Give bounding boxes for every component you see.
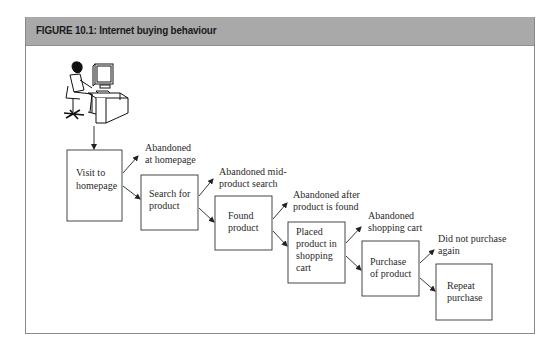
- exit-did-not-purchase-again: Did not purchase again: [438, 233, 507, 256]
- step-found-product: Found product: [215, 196, 272, 250]
- exit-label: Abandoned: [368, 210, 414, 221]
- step-label: Found: [228, 210, 254, 221]
- exit-label: Abandoned mid-: [219, 166, 287, 177]
- step-label: Visit to: [76, 167, 105, 178]
- exit-label: product search: [219, 178, 278, 189]
- step-label: shopping: [296, 250, 333, 261]
- exit-abandoned-homepage: Abandoned at homepage: [145, 142, 196, 165]
- step-label: homepage: [76, 180, 118, 191]
- exit-label: shopping cart: [368, 222, 422, 233]
- step-label: Purchase: [370, 256, 407, 267]
- step-placed-in-cart: Placed product in shopping cart: [288, 222, 345, 283]
- flow-diagram: Visit to homepage Search for product Fou…: [0, 0, 559, 353]
- step-purchase-product: Purchase of product: [362, 241, 419, 296]
- step-label: of product: [370, 268, 412, 279]
- exit-label: Abandoned: [145, 142, 191, 153]
- step-label: product: [149, 200, 180, 211]
- exit-abandoned-cart: Abandoned shopping cart: [368, 210, 422, 233]
- step-label: purchase: [447, 292, 483, 303]
- person-at-computer-icon: [64, 62, 128, 123]
- exit-label: at homepage: [145, 154, 196, 165]
- step-label: Repeat: [447, 280, 475, 291]
- step-search-product: Search for product: [141, 175, 198, 230]
- step-label: product in: [296, 238, 337, 249]
- exit-label: again: [438, 245, 460, 256]
- exit-label: product is found: [293, 201, 359, 212]
- step-visit-homepage: Visit to homepage: [67, 150, 122, 221]
- step-label: cart: [296, 262, 311, 273]
- step-label: Placed: [296, 226, 323, 237]
- step-label: Search for: [149, 188, 191, 199]
- exit-label: Did not purchase: [438, 233, 507, 244]
- step-repeat-purchase: Repeat purchase: [436, 264, 492, 320]
- exit-label: Abandoned after: [293, 189, 361, 200]
- step-label: product: [228, 222, 259, 233]
- exit-abandoned-search: Abandoned mid- product search: [219, 166, 287, 189]
- exit-abandoned-after-found: Abandoned after product is found: [293, 189, 361, 212]
